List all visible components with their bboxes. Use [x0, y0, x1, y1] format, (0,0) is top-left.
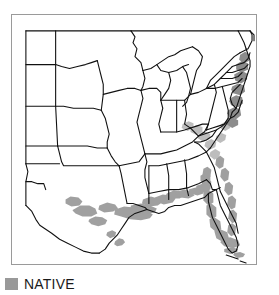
legend-swatch-native-icon	[5, 278, 18, 290]
map-canvas	[12, 15, 256, 264]
native-shaded-chesapeake	[226, 52, 250, 128]
map-legend: NATIVE	[5, 277, 75, 291]
legend-label-native: NATIVE	[24, 277, 75, 291]
distribution-map-figure: NATIVE	[0, 0, 279, 295]
native-shaded-regions	[66, 156, 246, 258]
map-frame	[11, 14, 257, 265]
